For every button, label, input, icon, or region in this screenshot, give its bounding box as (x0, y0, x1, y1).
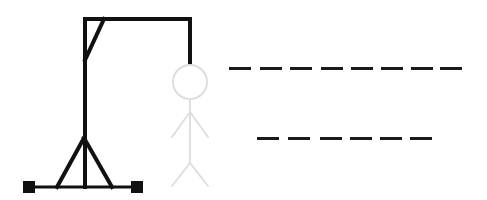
figure-left-leg (172, 163, 190, 186)
letter-slot (229, 67, 251, 70)
gallows-support-left (57, 138, 84, 187)
letter-slot (350, 137, 372, 140)
letter-slot (260, 67, 282, 70)
letter-slot (380, 137, 402, 140)
word-row-1 (0, 67, 487, 71)
word-row-2 (0, 137, 487, 141)
gallows (30, 19, 190, 187)
letter-slot (410, 137, 432, 140)
letter-slot (257, 137, 279, 140)
letter-slot (381, 67, 403, 70)
gallows-drawing (0, 0, 487, 200)
letter-slot (411, 67, 433, 70)
gallows-support-right (84, 138, 112, 187)
stick-figure (172, 65, 208, 186)
figure-left-arm (172, 112, 190, 137)
hangman-game (0, 0, 487, 200)
base-block-right (131, 181, 143, 193)
gallows-brace (85, 19, 104, 60)
letter-slot (440, 67, 462, 70)
figure-right-arm (190, 112, 208, 137)
letter-slot (320, 137, 342, 140)
letter-slot (288, 137, 310, 140)
base-block-left (23, 181, 35, 193)
figure-right-leg (190, 163, 208, 186)
letter-slot (290, 67, 312, 70)
letter-slot (321, 67, 343, 70)
letter-slot (351, 67, 373, 70)
